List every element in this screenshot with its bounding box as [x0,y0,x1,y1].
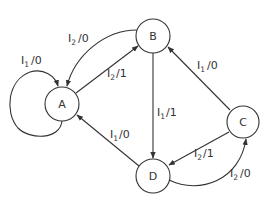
edge-label-B-A: I2/0 [68,32,89,47]
state-diagram: A B C D I1/0 I2/0 I2/1 I1/1 I1/0 I2/1 I2… [0,0,273,201]
edge-label-C-D: I2/1 [194,147,214,162]
edge-label-A-A: I1/0 [21,54,42,69]
edge-C-B [168,47,230,110]
edge-label-D-C: I2/0 [230,167,251,182]
svg-text:D: D [149,170,157,183]
edge-label-B-D: I1/1 [157,106,177,121]
state-node-D: D [136,159,170,193]
state-node-C: C [227,106,259,138]
svg-text:B: B [149,30,157,43]
svg-text:C: C [239,116,247,129]
edge-label-C-B: I1/0 [197,59,218,74]
edge-label-A-B: I2/1 [107,67,127,82]
svg-text:A: A [58,98,66,111]
state-node-A: A [45,87,79,121]
state-node-B: B [136,19,170,53]
edge-label-D-A: I1/0 [110,128,130,143]
